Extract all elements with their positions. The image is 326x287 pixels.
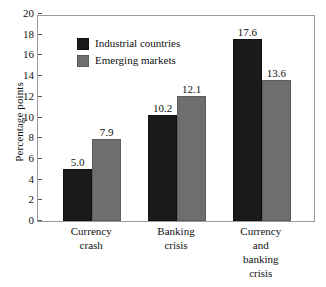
y-tick-label: 2 xyxy=(29,192,35,207)
legend-item-emerging-markets: Emerging markets xyxy=(77,53,180,68)
plot-area: 20181614121086420 5.07.910.212.117.613.6… xyxy=(37,15,315,222)
x-axis-label-2: Banking crisis xyxy=(131,224,221,252)
y-tick-label: 8 xyxy=(29,130,35,145)
y-tick-label: 20 xyxy=(23,6,34,21)
y-tick-label: 4 xyxy=(29,172,35,187)
x-axis-label-1: Currency crash xyxy=(46,224,136,252)
legend-label-industrial: Industrial countries xyxy=(95,37,180,50)
y-tick-label: 16 xyxy=(23,47,34,62)
y-tick-label: 18 xyxy=(23,27,34,42)
x-axis-labels: Currency crashBanking crisisCurrency and… xyxy=(37,224,315,286)
bar-emerging-2[interactable]: 12.1 xyxy=(177,96,206,221)
legend-swatch-icon-emerging xyxy=(77,55,89,67)
bar-value-label: 17.6 xyxy=(238,26,257,39)
y-tick-mark xyxy=(38,13,42,14)
legend-swatch-icon-industrial xyxy=(77,38,89,50)
y-tick-label: 12 xyxy=(23,89,34,104)
y-tick-label: 6 xyxy=(29,151,35,166)
bar-industrial-2[interactable]: 10.2 xyxy=(148,115,177,221)
chart-legend: Industrial countries Emerging markets xyxy=(77,36,180,68)
bar-value-label: 7.9 xyxy=(100,126,114,139)
bar-value-label: 5.0 xyxy=(71,156,85,169)
bar-industrial-3[interactable]: 17.6 xyxy=(233,39,262,221)
legend-label-emerging: Emerging markets xyxy=(95,54,176,67)
bar-value-label: 10.2 xyxy=(153,102,172,115)
bar-value-label: 12.1 xyxy=(182,83,201,96)
x-axis-label-3: Currency and banking crisis xyxy=(216,224,306,280)
legend-item-industrial-countries: Industrial countries xyxy=(77,36,180,51)
bar-emerging-3[interactable]: 13.6 xyxy=(262,80,291,221)
bar-chart-figure: Percentage points 20181614121086420 5.07… xyxy=(0,0,326,287)
y-tick-label: 10 xyxy=(23,110,34,125)
bar-industrial-1[interactable]: 5.0 xyxy=(63,169,92,221)
bar-group-3: 17.613.6 xyxy=(232,16,292,221)
bar-value-label: 13.6 xyxy=(267,67,286,80)
y-tick-label: 0 xyxy=(29,213,35,228)
y-tick-label: 14 xyxy=(23,68,34,83)
bar-emerging-1[interactable]: 7.9 xyxy=(92,139,121,221)
